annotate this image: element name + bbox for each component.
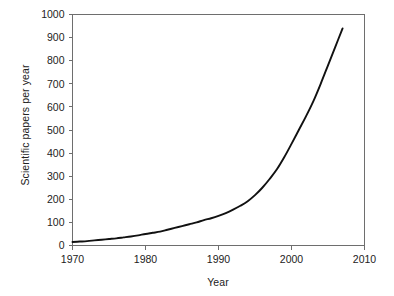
y-tick-mark-group	[69, 15, 73, 246]
y-tick-label: 400	[47, 147, 65, 159]
x-tick-mark-group	[73, 246, 365, 250]
x-tick-label: 2000	[280, 253, 304, 265]
plot-frame	[73, 15, 365, 246]
y-axis-title-wrapper: Scientific papers per year	[14, 0, 36, 250]
x-tick-label-group: 19701980199020002010	[61, 253, 377, 265]
y-tick-label: 800	[47, 54, 65, 66]
x-tick-label: 2010	[353, 253, 377, 265]
y-tick-label: 300	[47, 170, 65, 182]
x-axis-title-wrapper: Year	[72, 272, 364, 290]
y-tick-label: 0	[59, 239, 65, 251]
y-tick-label: 200	[47, 193, 65, 205]
y-axis-title: Scientific papers per year	[19, 64, 31, 185]
x-tick-label: 1970	[61, 253, 85, 265]
y-tick-label: 500	[47, 124, 65, 136]
y-tick-label: 1000	[41, 8, 65, 20]
x-tick-label: 1980	[134, 253, 158, 265]
chart-figure: Scientific papers per year Year 01002003…	[0, 0, 394, 296]
x-axis-title: Year	[207, 276, 229, 288]
data-series-line	[73, 28, 343, 242]
y-tick-label-group: 01002003004005006007008009001000	[41, 8, 65, 251]
y-tick-label: 600	[47, 101, 65, 113]
y-tick-label: 100	[47, 216, 65, 228]
plot-canvas: 01002003004005006007008009001000 1970198…	[0, 0, 394, 296]
x-tick-label: 1990	[207, 253, 231, 265]
y-tick-label: 700	[47, 78, 65, 90]
y-tick-label: 900	[47, 31, 65, 43]
